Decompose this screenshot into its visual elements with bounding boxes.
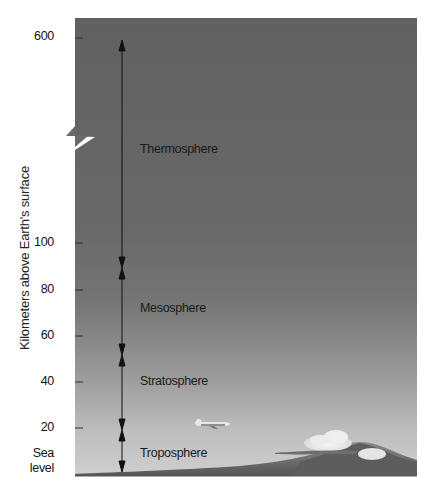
tick-label-level: level: [30, 461, 54, 476]
sky-panel: [75, 18, 417, 476]
y-axis-label: Kilometers above Earth's surface: [17, 166, 32, 350]
tick-label-sea-level: Sea level: [30, 446, 54, 476]
tick-label-600: 600: [34, 29, 54, 43]
tick-label-40: 40: [41, 374, 54, 388]
diagram-canvas: [0, 0, 440, 502]
atmosphere-diagram: Kilometers above Earth's surface 600 100…: [0, 0, 440, 502]
layer-label-troposphere: Troposphere: [140, 446, 207, 460]
tick-label-sea: Sea: [30, 446, 54, 461]
tick-label-100: 100: [34, 235, 54, 249]
layer-label-mesosphere: Mesosphere: [140, 301, 206, 315]
layer-label-stratosphere: Stratosphere: [140, 374, 208, 388]
tick-label-80: 80: [41, 282, 54, 296]
tick-label-20: 20: [41, 420, 54, 434]
tick-label-60: 60: [41, 328, 54, 342]
layer-label-thermosphere: Thermosphere: [140, 142, 218, 156]
